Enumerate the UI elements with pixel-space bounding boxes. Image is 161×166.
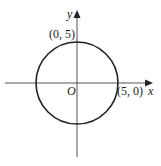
point-label-right: (5, 0) bbox=[117, 84, 143, 98]
y-axis-arrow-icon bbox=[74, 10, 81, 18]
x-axis-label: x bbox=[147, 84, 154, 98]
circle-diagram: y x O (0, 5) (5, 0) bbox=[0, 0, 161, 166]
y-axis-label: y bbox=[66, 7, 73, 21]
origin-label: O bbox=[67, 84, 76, 98]
point-label-top: (0, 5) bbox=[49, 27, 75, 41]
